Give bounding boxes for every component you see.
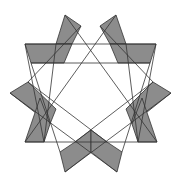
bottom-right-spike-shape [91,130,122,172]
star-figure [0,0,182,185]
bottom-left-spike-shape [60,130,91,172]
right-top-band-shape [110,44,156,63]
